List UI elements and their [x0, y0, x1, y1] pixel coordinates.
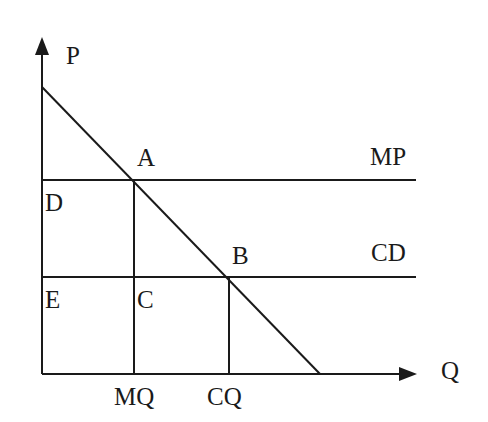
point-a-label: A: [137, 144, 155, 171]
y-axis-arrow-icon: [35, 37, 49, 55]
demand-curve: [42, 87, 320, 374]
x-axis-arrow-icon: [399, 367, 417, 381]
cd-line-label: CD: [371, 239, 406, 266]
mp-line-label: MP: [370, 143, 406, 170]
mq-tick-label: MQ: [114, 383, 154, 410]
point-d-label: D: [45, 189, 63, 216]
diagram-canvas: P Q A B C D E MP CD MQ CQ: [0, 0, 488, 422]
point-e-label: E: [45, 286, 60, 313]
x-axis-label: Q: [441, 357, 459, 384]
cq-tick-label: CQ: [207, 383, 242, 410]
point-c-label: C: [137, 286, 154, 313]
y-axis-label: P: [66, 42, 80, 69]
point-b-label: B: [232, 242, 249, 269]
